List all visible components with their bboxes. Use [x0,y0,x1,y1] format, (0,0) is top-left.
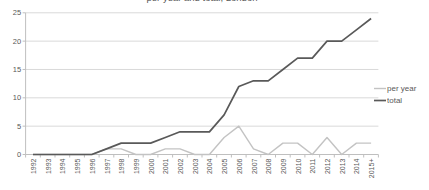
gridlines [26,13,379,126]
x-axis-label: 2001 [162,158,169,174]
x-axis-label: 2012 [324,158,331,174]
legend-label-total: total [387,96,402,105]
total-line [33,18,371,154]
y-axis-labels: 0510152025 [13,8,21,159]
x-axis-label: 2014 [353,158,360,174]
x-axis-label: 1994 [59,158,66,174]
x-axis-labels: 1992199319941995199619971998199920002001… [30,158,375,178]
x-axis-label: 2007 [251,158,258,174]
x-axis-label: 2013 [339,158,346,174]
x-axis-label: 2011 [309,158,316,173]
x-axis-label: 2006 [236,158,243,174]
y-axis-label: 25 [13,8,21,17]
x-axis-label: 1997 [104,158,111,174]
x-axis-label: 2005 [221,158,228,174]
y-axis-label: 20 [13,37,21,46]
x-axis-label: 1995 [74,158,81,174]
x-axis-label: 2004 [206,158,213,174]
x-axis-label: 2002 [177,158,184,174]
y-axis-label: 5 [17,122,21,131]
legend: per year total [374,84,417,105]
x-axis-label: 2008 [265,158,272,174]
per-year-line [33,126,371,154]
x-axis-label: 1992 [30,158,37,174]
y-axis-label: 0 [17,150,21,159]
x-axis-label: 2000 [148,158,155,174]
line-chart: 0510152025 19921993199419951996199719981… [0,0,429,190]
x-axis-label: 2003 [192,158,199,174]
series-lines [33,18,371,154]
legend-label-per-year: per year [387,84,417,93]
x-axis-label: 2015+ [368,159,375,179]
x-axis-label: 1996 [89,158,96,174]
y-axis-label: 15 [13,65,21,74]
chart-screenshot: per year and total, London 0510152025 19… [0,0,429,190]
x-axis-label: 1993 [45,158,52,174]
legend-item-per-year: per year [374,84,417,93]
axes [26,13,379,155]
x-axis-label: 1999 [133,158,140,174]
x-axis-label: 1998 [118,158,125,174]
x-axis-label: 2009 [280,158,287,174]
y-axis-label: 10 [13,93,21,102]
x-axis-label: 2010 [295,158,302,174]
